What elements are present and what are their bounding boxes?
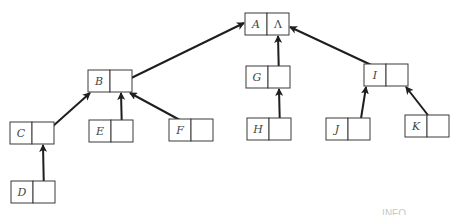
node-label: I [372,69,378,82]
tree-node-b: B [88,70,132,92]
link-cell [191,119,213,141]
link-cell [386,64,408,86]
link-cell [348,118,370,140]
edges-layer [43,23,438,194]
node-label: F [175,124,184,137]
node-label: B [94,75,103,88]
node-label: H [252,123,263,136]
node-label: A [251,18,260,31]
node-label: E [95,125,104,138]
link-cell [33,181,55,203]
node-label: D [17,186,27,199]
tree-node-a: AΛ [245,13,289,35]
null-link-symbol: Λ [273,18,283,31]
tree-node-e: E [89,120,133,142]
parent-pointer-arrow-b-to-a [121,23,244,83]
tree-node-i: I [364,64,408,86]
link-cell [269,118,291,140]
link-cell [32,122,54,144]
tree-node-h: H [247,118,291,140]
tree-node-c: C [10,122,54,144]
figure-caption-fragment: INFO [0,203,456,215]
node-label: G [253,71,262,84]
link-cell [268,66,290,88]
parent-pointer-tree-diagram: AΛBGICEFHJKD [0,0,456,215]
tree-node-k: K [405,115,449,137]
tree-node-j: J [326,118,370,140]
tree-node-d: D [11,181,55,203]
node-label: K [411,120,421,133]
tree-node-f: F [169,119,213,141]
link-cell [427,115,449,137]
nodes-layer: AΛBGICEFHJKD [10,13,449,203]
node-label: C [17,127,26,140]
tree-node-g: G [246,66,290,88]
node-label: J [333,123,340,136]
link-cell [111,120,133,142]
link-cell [110,70,132,92]
